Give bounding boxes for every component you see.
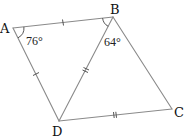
quadrilateral-diagram: A B C D 76° 64° xyxy=(0,0,188,140)
tick-dc-2 xyxy=(116,112,117,118)
vertex-label-d: D xyxy=(52,124,62,139)
vertex-label-b: B xyxy=(110,2,120,17)
angle-label-a: 76° xyxy=(26,34,43,48)
angle-arc-b xyxy=(103,18,109,26)
edge-bc xyxy=(113,17,172,109)
angle-label-b: 64° xyxy=(104,35,121,49)
tick-ab xyxy=(63,20,64,26)
vertex-label-a: A xyxy=(0,21,10,36)
edge-cd xyxy=(59,109,172,121)
angle-arc-a xyxy=(18,27,24,38)
tick-dc-1 xyxy=(114,112,115,118)
vertex-label-c: C xyxy=(174,105,184,120)
